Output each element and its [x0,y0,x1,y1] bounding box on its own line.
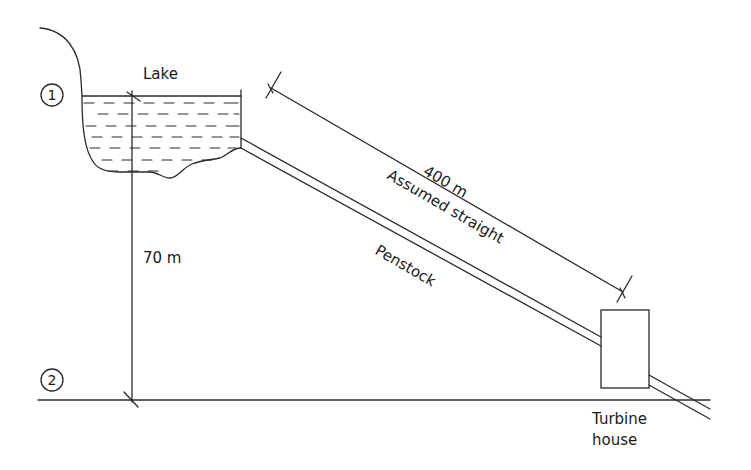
turbine-house [601,310,649,388]
penstock-lower-bottom [649,385,710,419]
turbine-house-label-line2: house [592,431,637,449]
diagram-svg: 1 2 Lake 70 m 400 m Assumed straight Pen… [0,0,751,470]
lake-label: Lake [143,65,178,83]
penstock-upper-top [241,138,601,337]
turbine-house-label-line1: Turbine [591,410,647,428]
height-label: 70 m [143,249,181,267]
point-1-label: 1 [48,87,57,103]
water-hatching [84,103,239,171]
penstock-lower-top [649,375,710,409]
penstock-label: Penstock [372,241,439,290]
point-2-label: 2 [48,372,57,388]
penstock-diagram: 1 2 Lake 70 m 400 m Assumed straight Pen… [0,0,751,470]
